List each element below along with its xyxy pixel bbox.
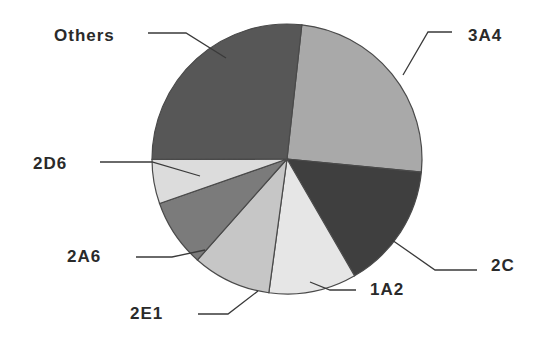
slice-3a4 — [287, 25, 422, 172]
pie-chart — [0, 0, 542, 348]
leader-line-3a4 — [403, 32, 452, 75]
label-2d6: 2D6 — [33, 155, 67, 172]
leader-line-2c — [392, 240, 477, 270]
label-2c: 2C — [491, 257, 515, 274]
label-3a4: 3A4 — [468, 27, 502, 44]
pie-slices — [152, 24, 422, 294]
label-1a2: 1A2 — [370, 281, 404, 298]
label-2a6: 2A6 — [67, 248, 101, 265]
label-others: Others — [54, 27, 115, 44]
leader-line-2e1 — [198, 291, 258, 314]
slice-others — [152, 24, 302, 159]
label-2e1: 2E1 — [130, 305, 163, 322]
